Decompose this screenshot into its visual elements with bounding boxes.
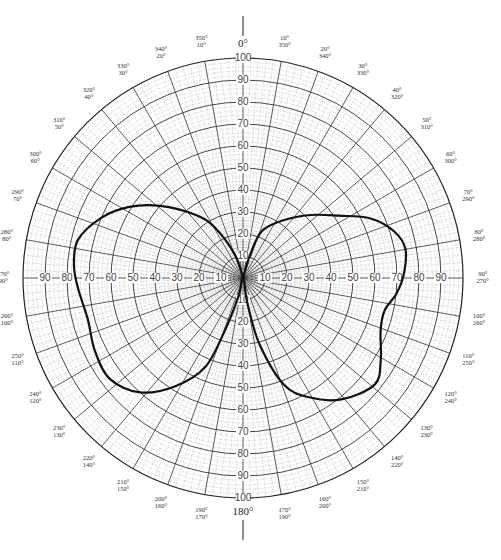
angle-label: 50° <box>422 116 432 123</box>
angle-label-inner: 130° <box>53 431 66 438</box>
radial-tick-label: 90 <box>237 74 249 85</box>
radial-tick-label: 50 <box>237 382 249 393</box>
angle-label: 210° <box>117 478 130 485</box>
radial-tick-label: 70 <box>83 272 95 283</box>
minor-spoke <box>42 282 235 368</box>
radial-tick-label: 80 <box>237 96 249 107</box>
angle-label: 70° <box>464 188 474 195</box>
angle-label-inner: 310° <box>421 123 434 130</box>
angle-label: 190° <box>195 506 208 513</box>
minor-spoke <box>250 284 407 425</box>
radial-tick-label: 60 <box>237 140 249 151</box>
radial-tick-label: 10 <box>215 272 227 283</box>
angle-label: 310° <box>53 116 66 123</box>
radial-tick-label: 80 <box>413 272 425 283</box>
radial-tick-label: 30 <box>237 338 249 349</box>
minor-spoke <box>247 84 346 270</box>
minor-spoke <box>252 279 461 308</box>
radial-tick-label: 90 <box>39 272 51 283</box>
minor-spoke <box>175 69 240 270</box>
radial-tick-label: 70 <box>237 426 249 437</box>
angle-label-inner: 250° <box>462 359 475 366</box>
radial-tick-label: 20 <box>237 316 249 327</box>
angle-label: 350° <box>195 34 208 41</box>
radial-tick-label: 50 <box>347 272 359 283</box>
minor-spoke <box>246 286 325 482</box>
minor-spoke <box>96 115 237 272</box>
minor-spoke <box>108 105 238 271</box>
minor-spoke <box>248 105 378 271</box>
minor-spoke <box>190 65 241 270</box>
minor-spoke <box>96 285 237 442</box>
minor-spoke <box>126 285 238 464</box>
angle-label: 100° <box>473 312 486 319</box>
angle-label-inner: 50° <box>55 123 65 130</box>
angle-label-inner: 240° <box>444 397 457 404</box>
minor-spoke <box>28 280 235 324</box>
radial-tick-label: 40 <box>325 272 337 283</box>
minor-spoke <box>56 283 235 395</box>
angle-label: 340° <box>155 45 168 52</box>
minor-spoke <box>25 279 234 308</box>
radial-tick-label: 50 <box>237 162 249 173</box>
angle-label: 90° <box>478 270 488 277</box>
radial-tick-label: 30 <box>303 272 315 283</box>
angle-label: 290° <box>11 188 24 195</box>
angle-label: 160° <box>319 495 332 502</box>
angle-label: 30° <box>358 62 368 69</box>
minor-spoke <box>246 286 311 487</box>
angle-label-inner: 330° <box>357 69 370 76</box>
radial-tick-label: 60 <box>369 272 381 283</box>
radial-tick-label: 80 <box>237 448 249 459</box>
minor-spoke <box>49 282 235 381</box>
minor-spoke <box>246 74 325 270</box>
radial-tick-label: 30 <box>171 272 183 283</box>
angle-label-inner: 320° <box>391 93 404 100</box>
angle-label: 80° <box>475 228 485 235</box>
angle-label-inner: 160° <box>155 502 168 509</box>
angle-label-inner: 170° <box>195 513 208 520</box>
angle-label-inner: 230° <box>421 431 434 438</box>
cardinal-label-bottom: 180° <box>233 505 254 517</box>
angle-label-inner: 150° <box>117 485 130 492</box>
angle-label: 330° <box>117 62 130 69</box>
angle-label: 270° <box>0 270 10 277</box>
minor-spoke <box>190 287 241 492</box>
minor-spoke <box>154 286 240 479</box>
minor-spoke <box>245 63 289 270</box>
angle-label-inner: 220° <box>391 461 404 468</box>
radial-tick-label: 40 <box>237 360 249 371</box>
angle-label: 200° <box>155 495 168 502</box>
minor-spoke <box>161 286 240 482</box>
angle-label-inner: 190° <box>278 513 291 520</box>
angle-label: 240° <box>29 390 42 397</box>
angle-label-inner: 20° <box>156 52 166 59</box>
minor-spoke <box>249 115 390 272</box>
minor-spoke <box>252 225 457 276</box>
minor-spoke <box>161 74 240 270</box>
radial-tick-label: 20 <box>193 272 205 283</box>
minor-spoke <box>39 196 235 275</box>
radial-tick-label: 80 <box>61 272 73 283</box>
angle-label-inner: 120° <box>29 397 42 404</box>
minor-spoke <box>251 196 447 275</box>
minor-spoke <box>39 281 235 360</box>
minor-spoke <box>250 143 416 273</box>
minor-spoke <box>30 225 235 276</box>
angle-label-inner: 280° <box>473 235 486 242</box>
angle-label-inner: 140° <box>83 461 96 468</box>
angle-label-inner: 90° <box>0 277 8 284</box>
angle-label-inner: 350° <box>278 41 291 48</box>
cardinal-label-top: 0° <box>238 37 248 49</box>
minor-spoke <box>248 285 360 464</box>
minor-spoke <box>108 285 238 451</box>
angle-label-inner: 100° <box>1 319 14 326</box>
minor-spoke <box>251 281 447 360</box>
angle-label-inner: 80° <box>2 235 12 242</box>
angle-label-inner: 10° <box>197 41 207 48</box>
angle-label: 220° <box>83 454 96 461</box>
angle-label-inner: 270° <box>477 277 490 284</box>
angle-label-inner: 210° <box>357 485 370 492</box>
angle-label: 60° <box>446 150 456 157</box>
minor-spoke <box>250 131 407 272</box>
